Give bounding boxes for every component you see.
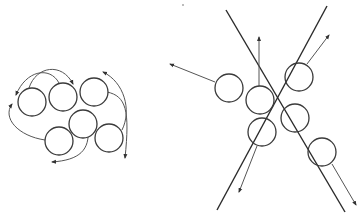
particle-circle <box>45 127 73 155</box>
straight-arrow-icon <box>307 35 329 64</box>
particle-circle <box>69 110 97 138</box>
particle-circle <box>215 74 243 102</box>
particle-motion-diagram <box>0 0 360 215</box>
straight-arrow-icon <box>170 64 215 82</box>
particle-circle <box>18 88 46 116</box>
particle-circle <box>246 86 274 114</box>
right-panel-crossing-lines <box>170 4 356 212</box>
particle-circle <box>308 138 336 166</box>
crossing-line <box>226 10 345 212</box>
left-panel-disordered-cluster <box>9 69 127 162</box>
particle-circle <box>95 124 123 152</box>
straight-arrow-icon <box>332 164 356 205</box>
stray-dot <box>182 4 184 6</box>
particle-circle <box>248 118 276 146</box>
curved-arrow-icon <box>103 72 126 130</box>
particle-circle <box>49 83 77 111</box>
particle-circle <box>80 78 108 106</box>
diagram-canvas <box>0 0 360 215</box>
